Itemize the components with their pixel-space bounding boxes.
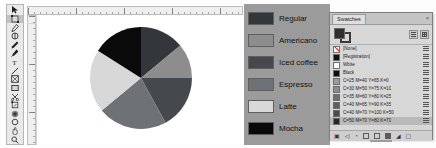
tool-zoom-tool[interactable] xyxy=(7,135,23,144)
swatch-row[interactable]: C=40 M=70 Y=100 K=50 xyxy=(330,109,432,117)
tool-selection-tool[interactable] xyxy=(7,6,23,15)
swatch-name-label: Wbite xyxy=(343,62,355,68)
tools-palette[interactable]: T xyxy=(6,4,24,145)
legend-label-mocha: Mocha xyxy=(279,124,303,133)
legend-item-espresso[interactable]: Espresso xyxy=(248,76,326,92)
panel-tab-bar[interactable]: Swatches × xyxy=(330,13,432,25)
legend-item-mocha[interactable]: Mocha xyxy=(248,120,326,136)
tool-pen-tool[interactable] xyxy=(7,23,23,32)
swatch-name-label: C=30 M=50 Y=75 K=10 xyxy=(343,86,391,92)
legend-item-regular[interactable]: Regular xyxy=(248,10,326,26)
chart-legend[interactable]: Regular Americano Iced coffee Espresso L… xyxy=(244,4,330,145)
swatch-name-label: Black xyxy=(343,70,354,76)
legend-label-iced-coffee: Iced coffee xyxy=(279,58,318,67)
tool-gradient-swatch-tool[interactable] xyxy=(7,110,23,119)
swatch-row[interactable]: C=25 M=40 Y=65 K=0 xyxy=(330,77,432,85)
legend-swatch-espresso xyxy=(248,78,274,91)
trash-icon[interactable]: ▢ xyxy=(406,133,412,140)
tool-eyedropper-tool[interactable] xyxy=(7,49,23,58)
horizontal-ruler[interactable] xyxy=(27,6,243,15)
swatch-row[interactable]: C=35 M=60 Y=80 K=25 xyxy=(330,93,432,101)
swatch-row[interactable]: [Registration] xyxy=(330,53,432,61)
swatch-name-label: C=40 M=65 Y=90 K=35 xyxy=(343,102,391,108)
vertical-ruler[interactable] xyxy=(27,15,36,145)
list-view-button[interactable] xyxy=(409,30,418,39)
swatch-color-mode-icon xyxy=(423,62,429,68)
tab-swatches[interactable]: Swatches xyxy=(332,14,366,24)
artboard-canvas[interactable] xyxy=(37,16,243,144)
swatch-color-chip xyxy=(333,86,340,93)
swatch-color-mode-icon xyxy=(423,54,429,60)
tool-gap-tool[interactable] xyxy=(7,32,23,41)
legend-label-americano: Americano xyxy=(279,36,317,45)
swatch-name-label: C=50 M=70 Y=80 K=70 xyxy=(343,118,391,124)
pie-chart-svg xyxy=(89,26,193,130)
tool-hand-tool[interactable] xyxy=(7,127,23,136)
gradient-icon[interactable]: ◔ xyxy=(354,133,358,140)
legend-label-regular: Regular xyxy=(279,14,307,23)
swatch-name-label: C=35 M=60 Y=80 K=25 xyxy=(343,94,391,100)
swatch-color-chip xyxy=(333,118,340,125)
swatch-color-chip xyxy=(333,70,340,77)
swatch-color-mode-icon xyxy=(423,78,429,84)
svg-text:T: T xyxy=(12,59,17,66)
tool-free-transform-tool[interactable] xyxy=(7,101,23,110)
swatch-color-mode-icon xyxy=(423,118,429,124)
tool-rectangle-frame-tool[interactable] xyxy=(7,75,23,84)
swatch-row[interactable]: [None] xyxy=(330,45,432,53)
swatches-panel[interactable]: Swatches × [None][Registration]WbiteBlac… xyxy=(329,12,433,140)
swatches-list[interactable]: [None][Registration]WbiteBlackC=25 M=40 … xyxy=(330,45,432,130)
tool-note-tool[interactable] xyxy=(7,118,23,127)
application-window: T xyxy=(0,0,436,148)
folder-icon[interactable] xyxy=(363,133,369,139)
vertical-ruler-major-ticks xyxy=(28,16,35,144)
tool-rectangle-tool[interactable] xyxy=(7,84,23,93)
swatch-color-chip xyxy=(333,94,340,101)
new-swatch-icon[interactable] xyxy=(385,133,391,139)
legend-swatch-iced-coffee xyxy=(248,56,274,69)
swatch-name-label: [None] xyxy=(343,46,357,52)
color-group-icon[interactable]: ◁ xyxy=(345,133,350,140)
view-mode-buttons[interactable] xyxy=(409,30,429,39)
swatch-color-chip xyxy=(333,102,340,109)
swatch-row[interactable]: C=50 M=70 Y=80 K=70 xyxy=(330,117,432,125)
swatch-color-chip xyxy=(333,78,340,85)
legend-item-americano[interactable]: Americano xyxy=(248,32,326,48)
swatch-row[interactable]: C=40 M=65 Y=90 K=35 xyxy=(330,101,432,109)
swatch-color-mode-icon xyxy=(423,94,429,100)
swatch-row[interactable]: C=30 M=50 Y=75 K=10 xyxy=(330,85,432,93)
legend-item-iced-coffee[interactable]: Iced coffee xyxy=(248,54,326,70)
tool-line-tool[interactable] xyxy=(7,66,23,75)
tool-type-tool[interactable]: T xyxy=(7,58,23,67)
tool-direct-selection-tool[interactable] xyxy=(7,15,23,24)
swatch-color-chip xyxy=(333,110,340,117)
tool-scissors-tool[interactable] xyxy=(7,92,23,101)
swatch-color-chip xyxy=(333,54,340,61)
new-page-icon[interactable] xyxy=(374,133,380,139)
grid-view-button[interactable] xyxy=(420,30,429,39)
swatch-color-mode-icon xyxy=(423,86,429,92)
swatch-color-mode-icon xyxy=(423,46,429,52)
swatch-color-chip xyxy=(333,46,340,53)
swatch-row[interactable]: Wbite xyxy=(330,61,432,69)
swatch-row[interactable]: Black xyxy=(330,69,432,77)
legend-swatch-latte xyxy=(248,100,274,113)
legend-label-latte: Latte xyxy=(279,102,297,111)
swatch-name-label: C=40 M=70 Y=100 K=50 xyxy=(343,110,394,116)
swatch-color-mode-icon xyxy=(423,102,429,108)
panel-resize-grip[interactable] xyxy=(370,140,392,142)
legend-swatch-americano xyxy=(248,34,274,47)
swatch-name-label: C=25 M=40 Y=65 K=0 xyxy=(343,78,389,84)
legend-item-latte[interactable]: Latte xyxy=(248,98,326,114)
horizontal-ruler-major-ticks xyxy=(28,7,242,14)
tool-pencil-tool[interactable] xyxy=(7,41,23,50)
pie-chart[interactable] xyxy=(89,26,193,130)
legend-swatch-mocha xyxy=(248,122,274,135)
fill-stroke-section[interactable] xyxy=(330,25,432,45)
fill-stroke-proxy[interactable] xyxy=(334,28,352,42)
swatch-all-icon[interactable]: ▣ xyxy=(334,133,340,140)
legend-label-espresso: Espresso xyxy=(279,80,312,89)
color-group-add-icon[interactable]: ◢ xyxy=(396,133,401,140)
close-icon[interactable]: × xyxy=(426,15,429,21)
fill-color-box[interactable] xyxy=(334,28,345,39)
